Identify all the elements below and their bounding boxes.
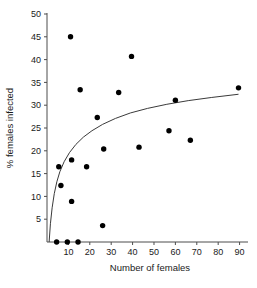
- chart-canvas: 5101520253035404550 102030405060708090 %…: [0, 0, 257, 288]
- scatter-chart-figure: 5101520253035404550 102030405060708090 %…: [0, 0, 257, 288]
- data-point-marker: [84, 164, 89, 169]
- data-point-marker: [100, 223, 105, 228]
- x-tick-label: 10: [63, 247, 73, 257]
- data-point-marker: [95, 115, 100, 120]
- data-point-marker: [65, 239, 70, 244]
- y-axis: 5101520253035404550: [31, 9, 47, 242]
- x-tick-label: 50: [149, 247, 159, 257]
- y-tick-label: 20: [31, 146, 41, 156]
- y-tick-label: 5: [36, 214, 41, 224]
- y-tick-label: 10: [31, 192, 41, 202]
- data-point-marker: [236, 85, 241, 90]
- data-point-marker: [136, 144, 141, 149]
- fit-curve: [49, 94, 238, 242]
- y-tick-label: 50: [31, 9, 41, 19]
- data-point-marker: [188, 138, 193, 143]
- y-tick-label: 35: [31, 78, 41, 88]
- data-point-marker: [101, 146, 106, 151]
- x-tick-label: 30: [106, 247, 116, 257]
- x-tick-label: 90: [235, 247, 245, 257]
- y-tick-label: 45: [31, 32, 41, 42]
- data-points: [54, 34, 241, 245]
- y-tick-label: 25: [31, 123, 41, 133]
- data-point-marker: [69, 157, 74, 162]
- data-point-marker: [69, 199, 74, 204]
- data-point-marker: [77, 87, 82, 92]
- data-point-marker: [129, 54, 134, 59]
- data-point-marker: [54, 239, 59, 244]
- y-axis-title: % females infected: [4, 88, 15, 168]
- x-tick-label: 60: [170, 247, 180, 257]
- x-axis-title: Number of females: [110, 262, 191, 273]
- data-point-marker: [68, 34, 73, 39]
- y-tick-label: 15: [31, 169, 41, 179]
- data-point-marker: [116, 90, 121, 95]
- y-tick-label: 30: [31, 100, 41, 110]
- regression-curve: [49, 94, 238, 242]
- y-tick-label: 40: [31, 55, 41, 65]
- data-point-marker: [56, 164, 61, 169]
- data-point-marker: [173, 97, 178, 102]
- x-tick-label: 40: [128, 247, 138, 257]
- x-tick-label: 70: [192, 247, 202, 257]
- x-tick-label: 20: [85, 247, 95, 257]
- x-tick-label: 80: [213, 247, 223, 257]
- data-point-marker: [58, 183, 63, 188]
- data-point-marker: [75, 239, 80, 244]
- data-point-marker: [166, 128, 171, 133]
